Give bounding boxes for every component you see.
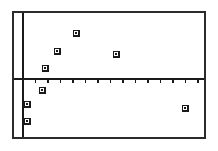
- data-point-marker: [39, 87, 46, 94]
- marker-center-dot: [26, 103, 28, 105]
- scatter-plot-area: [14, 13, 204, 137]
- data-point-marker: [113, 51, 120, 58]
- calculator-screenshot: [0, 0, 218, 151]
- data-point-marker: [54, 48, 61, 55]
- data-point-marker: [24, 101, 31, 108]
- marker-center-dot: [115, 53, 117, 55]
- marker-center-dot: [56, 50, 58, 52]
- axes-group: [14, 13, 204, 137]
- marker-center-dot: [26, 120, 28, 122]
- data-point-group: [24, 30, 189, 125]
- calculator-screen-frame: [12, 11, 206, 139]
- data-point-marker: [42, 65, 49, 72]
- scatter-plot-svg: [14, 13, 204, 137]
- data-point-marker: [24, 118, 31, 125]
- data-point-marker: [182, 105, 189, 112]
- data-point-marker: [73, 30, 80, 37]
- marker-center-dot: [41, 89, 43, 91]
- marker-center-dot: [75, 32, 77, 34]
- marker-center-dot: [184, 107, 186, 109]
- marker-center-dot: [44, 67, 46, 69]
